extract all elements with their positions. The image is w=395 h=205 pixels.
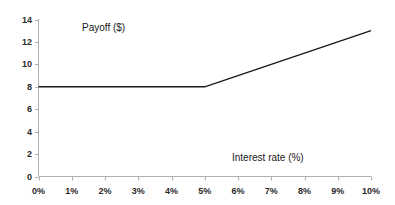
y-axis-tick-label: 10 xyxy=(6,59,32,69)
y-axis-tick-label: 8 xyxy=(6,82,32,92)
y-axis-tick-label: 4 xyxy=(6,127,32,137)
y-axis-tick-label: 0 xyxy=(6,172,32,182)
x-axis-tick-label: 0% xyxy=(32,186,45,196)
y-axis-title: Payoff ($) xyxy=(82,22,125,33)
payoff-data-line xyxy=(39,31,372,87)
x-axis-tick-label: 1% xyxy=(65,186,78,196)
y-axis-tick-label: 14 xyxy=(6,15,32,25)
x-axis-ticks xyxy=(40,177,372,181)
y-axis-tick-label: 2 xyxy=(6,149,32,159)
x-axis-tick-label: 3% xyxy=(132,186,145,196)
x-axis-tick-label: 8% xyxy=(298,186,311,196)
x-axis-tick-label: 4% xyxy=(165,186,178,196)
x-axis-tick-label: 2% xyxy=(98,186,111,196)
y-axis-tick-label: 12 xyxy=(6,37,32,47)
x-axis-tick-label: 9% xyxy=(331,186,344,196)
x-axis-tick-label: 5% xyxy=(198,186,211,196)
y-axis-tick-label: 6 xyxy=(6,104,32,114)
x-axis-tick-label: 7% xyxy=(265,186,278,196)
chart-axes xyxy=(39,19,372,177)
x-axis-tick-label: 10% xyxy=(362,186,380,196)
payoff-chart-figure: 02468101214 0%1%2%3%4%5%6%7%8%9%10% Payo… xyxy=(0,0,395,205)
x-axis-title: Interest rate (%) xyxy=(232,152,304,163)
x-axis-tick-label: 6% xyxy=(231,186,244,196)
chart-plot-area xyxy=(0,0,395,205)
y-axis-ticks xyxy=(35,21,39,178)
